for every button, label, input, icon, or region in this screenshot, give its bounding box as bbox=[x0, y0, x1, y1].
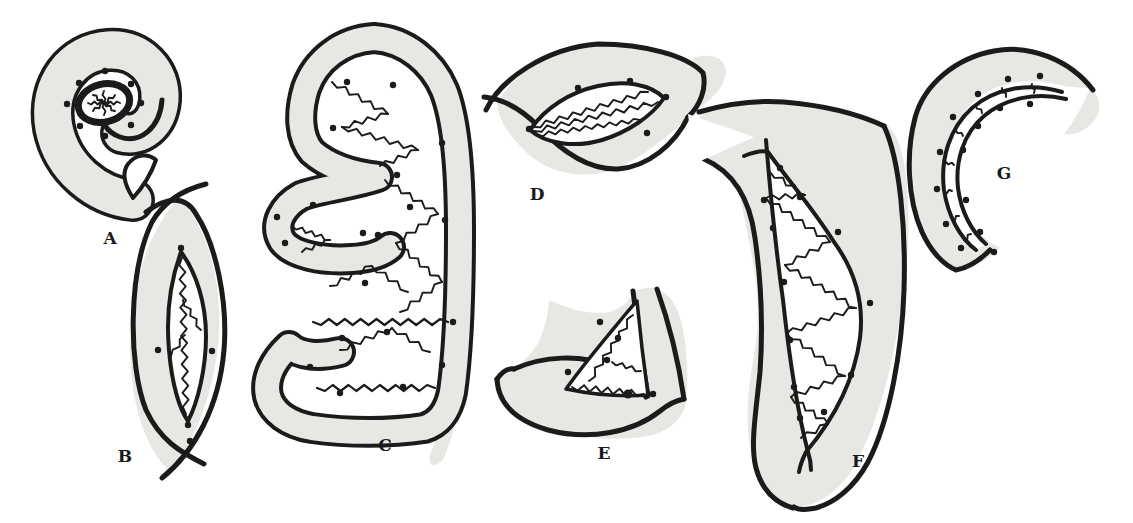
dot bbox=[644, 130, 650, 136]
diagram-canvas: A B bbox=[0, 0, 1133, 523]
figure-f-curved-band-section: F bbox=[688, 101, 909, 509]
dot bbox=[848, 372, 854, 378]
dot bbox=[330, 125, 336, 131]
zigzag-line bbox=[317, 385, 435, 391]
dot bbox=[400, 384, 406, 390]
dot bbox=[375, 232, 381, 238]
dot bbox=[624, 390, 633, 399]
figure-c-convoluted-section: C bbox=[267, 38, 469, 465]
dot bbox=[362, 280, 368, 286]
dot bbox=[439, 362, 445, 368]
dot bbox=[597, 319, 603, 325]
figure-g-top-wash bbox=[1064, 88, 1099, 134]
dot bbox=[770, 225, 776, 231]
dot bbox=[1027, 101, 1033, 107]
figure-b-lens-section: B bbox=[118, 184, 225, 478]
dot bbox=[565, 369, 571, 375]
dot bbox=[337, 390, 343, 396]
zigzag-line bbox=[342, 127, 418, 150]
dot bbox=[943, 221, 949, 227]
dot bbox=[76, 80, 82, 86]
dot bbox=[102, 133, 108, 139]
dot bbox=[950, 114, 956, 120]
figure-c-label: C bbox=[378, 435, 392, 455]
dot bbox=[77, 123, 83, 129]
figure-g-label: G bbox=[997, 163, 1012, 183]
dot bbox=[1005, 76, 1011, 82]
dot bbox=[128, 122, 134, 128]
dot bbox=[209, 348, 215, 354]
dot bbox=[526, 126, 532, 132]
dot bbox=[650, 391, 656, 397]
figure-a-spiral-section: A bbox=[53, 50, 162, 248]
dot bbox=[102, 68, 108, 74]
dot bbox=[138, 100, 144, 106]
zigzag-line bbox=[342, 114, 388, 128]
dot bbox=[821, 409, 827, 415]
figure-f-label: F bbox=[852, 451, 864, 471]
dot bbox=[997, 105, 1003, 111]
dot bbox=[344, 79, 350, 85]
dot bbox=[128, 81, 134, 87]
dot bbox=[975, 91, 981, 97]
zigzag-line bbox=[400, 282, 442, 312]
dot bbox=[963, 197, 969, 203]
dot bbox=[781, 279, 787, 285]
dot bbox=[185, 422, 191, 428]
dot bbox=[958, 245, 964, 251]
dot bbox=[310, 202, 316, 208]
dot bbox=[937, 149, 943, 155]
zigzag-line bbox=[946, 162, 954, 165]
dot bbox=[442, 217, 448, 223]
dot bbox=[384, 329, 390, 335]
dot bbox=[975, 123, 981, 129]
figure-a-label: A bbox=[102, 228, 117, 248]
figure-d-label: D bbox=[530, 184, 545, 204]
dot bbox=[360, 230, 366, 236]
dot bbox=[934, 186, 940, 192]
dot bbox=[960, 147, 966, 153]
dot bbox=[787, 337, 793, 343]
figure-e-label: E bbox=[598, 443, 611, 463]
dot bbox=[155, 347, 161, 353]
dot bbox=[797, 415, 803, 421]
dot bbox=[282, 240, 288, 246]
diagram-page: A B bbox=[0, 0, 1133, 523]
dot bbox=[797, 194, 803, 200]
dot bbox=[835, 229, 841, 235]
dot bbox=[627, 78, 633, 84]
dot bbox=[187, 438, 193, 444]
dot bbox=[615, 335, 621, 341]
dot bbox=[777, 165, 783, 171]
dot bbox=[307, 364, 313, 370]
dot bbox=[394, 172, 400, 178]
dot bbox=[977, 229, 983, 235]
dot bbox=[991, 249, 997, 255]
dot bbox=[450, 319, 456, 325]
dot bbox=[604, 357, 610, 363]
dot bbox=[439, 140, 445, 146]
dot bbox=[178, 245, 184, 251]
figure-g-crescent-section: G bbox=[908, 49, 1099, 270]
dot bbox=[575, 85, 581, 91]
zigzag-line bbox=[332, 82, 388, 114]
dot bbox=[407, 204, 413, 210]
zigzag-line bbox=[313, 319, 448, 325]
dot bbox=[791, 384, 797, 390]
figure-e-angled-section: E bbox=[497, 288, 687, 463]
dot bbox=[867, 300, 873, 306]
figure-b-label: B bbox=[118, 446, 132, 466]
dot bbox=[274, 214, 280, 220]
zigzag-line bbox=[396, 243, 442, 282]
dot bbox=[390, 82, 396, 88]
dot bbox=[1037, 73, 1043, 79]
dot bbox=[339, 335, 345, 341]
dot bbox=[64, 101, 70, 107]
dot bbox=[663, 94, 669, 100]
dot bbox=[761, 197, 767, 203]
zigzag-line bbox=[392, 328, 430, 352]
